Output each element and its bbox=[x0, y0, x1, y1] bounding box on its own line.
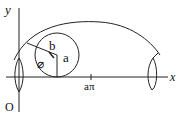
distance-label: b bbox=[49, 39, 56, 52]
right-loop bbox=[148, 53, 158, 90]
x-tick-label: aπ bbox=[84, 81, 94, 92]
diagram: y x O a b ⌀ aπ bbox=[0, 0, 181, 118]
y-axis-label: y bbox=[5, 3, 11, 16]
angle-label: ⌀ bbox=[37, 58, 44, 70]
radius-label: a bbox=[63, 51, 69, 64]
origin-label: O bbox=[5, 101, 14, 113]
trochoid-arch bbox=[14, 22, 160, 60]
diagram-canvas bbox=[0, 0, 181, 118]
x-axis-label: x bbox=[170, 71, 175, 83]
